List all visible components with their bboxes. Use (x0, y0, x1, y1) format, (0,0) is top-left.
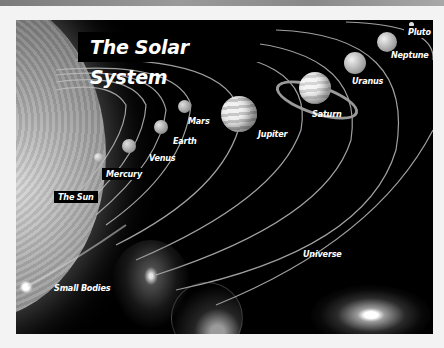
label-mars: Mars (188, 116, 210, 126)
solar-system-poster: The Solar System The Sun Mercury Venus E… (16, 20, 433, 334)
label-jupiter: Jupiter (258, 129, 287, 139)
label-earth: Earth (173, 136, 197, 146)
label-saturn: Saturn (312, 109, 342, 119)
label-neptune: Neptune (391, 50, 429, 60)
label-the-sun: The Sun (54, 191, 98, 203)
label-venus: Venus (149, 153, 175, 163)
label-uranus: Uranus (352, 76, 383, 86)
label-mercury: Mercury (102, 168, 146, 180)
label-pluto: Pluto (404, 26, 433, 38)
label-small-bodies: Small Bodies (54, 283, 110, 293)
top-strip (0, 0, 444, 6)
label-universe: Universe (303, 249, 342, 259)
